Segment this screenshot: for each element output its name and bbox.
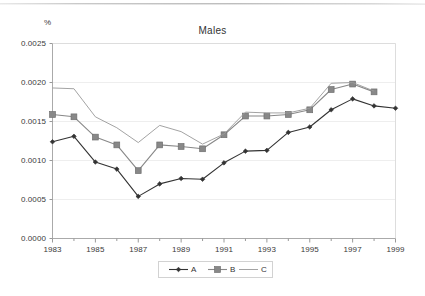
x-tick-label: 1987 (118, 245, 158, 254)
chart-figure: % Males 0.00000.00050.00100.00150.00200.… (0, 0, 425, 296)
x-tick-label: 1991 (204, 245, 244, 254)
x-tick-label: 1997 (333, 245, 373, 254)
x-tick-label: 1999 (376, 245, 416, 254)
legend-symbols (159, 262, 272, 277)
chart-legend: A B C (158, 261, 273, 278)
legend-label-b: B (230, 265, 235, 274)
legend-label-c: C (261, 265, 267, 274)
x-tick-label: 1985 (75, 245, 115, 254)
y-tick-label: 0.0015 (2, 117, 46, 126)
x-tick-label: 1993 (247, 245, 287, 254)
y-tick-label: 0.0000 (2, 234, 46, 243)
x-tick-label: 1995 (290, 245, 330, 254)
x-tick-label: 1989 (161, 245, 201, 254)
x-tick-label: 1983 (33, 245, 73, 254)
y-tick-label: 0.0010 (2, 156, 46, 165)
y-tick-label: 0.0025 (2, 39, 46, 48)
y-tick-label: 0.0005 (2, 195, 46, 204)
legend-label-a: A (191, 265, 196, 274)
y-tick-label: 0.0020 (2, 78, 46, 87)
